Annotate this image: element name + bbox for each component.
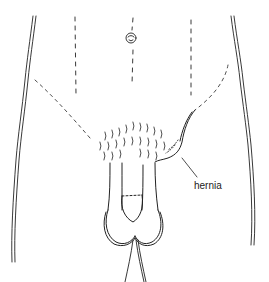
hernia-leader-line bbox=[182, 158, 197, 177]
hernia-label: hernia bbox=[194, 181, 222, 191]
groin-creases bbox=[35, 65, 228, 138]
pubic-hair bbox=[100, 122, 165, 160]
navel-icon bbox=[126, 33, 136, 43]
inner-thigh-lines bbox=[125, 240, 146, 282]
left-torso-outline bbox=[12, 16, 36, 262]
right-torso-outline bbox=[231, 16, 255, 245]
genital-outline bbox=[104, 163, 163, 246]
hernia-bulge bbox=[155, 110, 195, 162]
hernia-illustration: hernia bbox=[0, 0, 269, 282]
abdominal-markings bbox=[75, 17, 191, 95]
anatomy-drawing bbox=[0, 0, 269, 282]
